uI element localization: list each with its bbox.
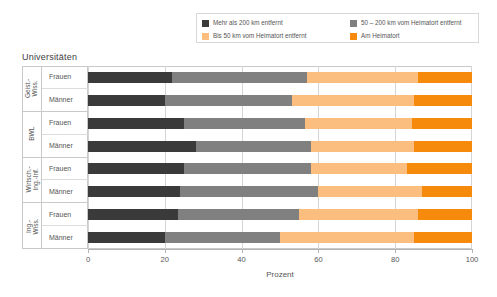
- series-cell-4: Frauen: [42, 158, 88, 181]
- series-label-7: Männer: [42, 234, 73, 241]
- legend-item-am-heimatort: Am Heimatort: [350, 32, 400, 40]
- bar-segment-6-0: [88, 209, 178, 220]
- group-label-2: Wirtsch.- Ing.-Inf.: [25, 167, 40, 193]
- bar-segment-0-2: [307, 72, 418, 83]
- group-cell-2: Wirtsch.- Ing.-Inf.: [22, 158, 42, 204]
- group-label-3: Ing.- Wiss.: [25, 218, 40, 234]
- bar-segment-5-3: [422, 186, 472, 197]
- gridline-80: [395, 66, 396, 249]
- bar-segment-1-0: [88, 95, 165, 106]
- bar-segment-4-3: [407, 163, 472, 174]
- bar-segment-0-3: [418, 72, 472, 83]
- series-label-column: FrauenMännerFrauenMännerFrauenMännerFrau…: [42, 66, 88, 249]
- gridline-60: [318, 66, 319, 249]
- series-cell-2: Frauen: [42, 112, 88, 135]
- legend-item-50-200-km: 50 – 200 km vom Heimatort entfernt: [350, 19, 461, 27]
- bar-1: [88, 95, 472, 106]
- group-cell-1: BWL: [22, 112, 42, 158]
- group-label-1: BWL: [28, 127, 35, 141]
- bar-6: [88, 209, 472, 220]
- bar-segment-0-0: [88, 72, 172, 83]
- group-cell-3: Ing.- Wiss.: [22, 203, 42, 249]
- x-tick-label-20: 20: [161, 255, 169, 264]
- series-label-0: Frauen: [42, 73, 71, 80]
- series-cell-5: Männer: [42, 180, 88, 203]
- gridline-0: [88, 66, 89, 249]
- legend-item-mehr-als-200-km: Mehr als 200 km entfernt: [202, 19, 350, 27]
- x-tick-40: [242, 249, 243, 253]
- x-axis-label: Prozent: [266, 270, 294, 279]
- series-label-1: Männer: [42, 96, 73, 103]
- legend-label-2: Bis 50 km vom Heimatort entfernt: [213, 32, 306, 40]
- bar-7: [88, 232, 472, 243]
- series-cell-7: Männer: [42, 226, 88, 249]
- bar-segment-7-0: [88, 232, 165, 243]
- bar-segment-7-2: [280, 232, 414, 243]
- bar-segment-3-0: [88, 141, 196, 152]
- x-tick-20: [165, 249, 166, 253]
- group-cell-0: Geist.- Wiss.: [22, 66, 42, 112]
- bar-segment-3-3: [414, 141, 472, 152]
- bar-segment-5-1: [180, 186, 318, 197]
- bar-segment-4-0: [88, 163, 184, 174]
- legend-swatch-icon-2: [202, 33, 209, 40]
- x-tick-80: [395, 249, 396, 253]
- legend-item-bis-50-km: Bis 50 km vom Heimatort entfernt: [202, 32, 350, 40]
- bar-segment-3-1: [196, 141, 311, 152]
- bar-segment-7-1: [165, 232, 280, 243]
- bar-segment-5-0: [88, 186, 180, 197]
- legend-label-0: Mehr als 200 km entfernt: [213, 19, 283, 27]
- bar-segment-2-0: [88, 118, 184, 129]
- bar-segment-3-2: [311, 141, 415, 152]
- bar-3: [88, 141, 472, 152]
- bar-segment-2-3: [412, 118, 472, 129]
- bar-4: [88, 163, 472, 174]
- x-tick-label-80: 80: [391, 255, 399, 264]
- bar-segment-1-1: [165, 95, 292, 106]
- gridline-20: [165, 66, 166, 249]
- x-tick-60: [318, 249, 319, 253]
- legend-swatch-icon-0: [202, 20, 209, 27]
- bar-5: [88, 186, 472, 197]
- legend-row-1: Mehr als 200 km entfernt 50 – 200 km vom…: [202, 17, 474, 29]
- bar-segment-6-1: [178, 209, 299, 220]
- legend-swatch-icon-3: [350, 33, 357, 40]
- x-tick-label-60: 60: [314, 255, 322, 264]
- bar-segment-4-1: [184, 163, 311, 174]
- bar-segment-4-2: [311, 163, 407, 174]
- bar-segment-0-1: [172, 72, 306, 83]
- series-label-6: Frauen: [42, 211, 71, 218]
- x-tick-100: [472, 249, 473, 253]
- series-label-4: Frauen: [42, 165, 71, 172]
- x-tick-label-100: 100: [466, 255, 479, 264]
- bar-segment-7-3: [414, 232, 472, 243]
- bar-2: [88, 118, 472, 129]
- x-tick-label-40: 40: [237, 255, 245, 264]
- gridline-40: [242, 66, 243, 249]
- legend-label-1: 50 – 200 km vom Heimatort entfernt: [361, 19, 461, 27]
- series-cell-1: Männer: [42, 89, 88, 112]
- series-cell-0: Frauen: [42, 66, 88, 89]
- bar-segment-2-2: [305, 118, 413, 129]
- series-cell-6: Frauen: [42, 203, 88, 226]
- group-label-column: Geist.- Wiss.BWLWirtsch.- Ing.-Inf.Ing.-…: [22, 66, 42, 249]
- legend-swatch-icon-1: [350, 20, 357, 27]
- series-label-2: Frauen: [42, 119, 71, 126]
- plot-area: [88, 66, 472, 249]
- legend-label-3: Am Heimatort: [361, 32, 400, 40]
- legend-row-2: Bis 50 km vom Heimatort entfernt Am Heim…: [202, 30, 474, 42]
- bar-segment-1-3: [414, 95, 472, 106]
- bar-segment-1-2: [292, 95, 415, 106]
- series-label-3: Männer: [42, 142, 73, 149]
- bar-segment-6-3: [418, 209, 472, 220]
- gridline-100: [471, 66, 472, 249]
- bar-segment-6-2: [299, 209, 418, 220]
- bar-segment-2-1: [184, 118, 305, 129]
- x-tick-0: [88, 249, 89, 253]
- x-tick-label-0: 0: [86, 255, 90, 264]
- bar-0: [88, 72, 472, 83]
- series-cell-3: Männer: [42, 135, 88, 158]
- group-label-0: Geist.- Wiss.: [25, 79, 40, 98]
- series-label-5: Männer: [42, 188, 73, 195]
- x-axis-line: [88, 249, 472, 250]
